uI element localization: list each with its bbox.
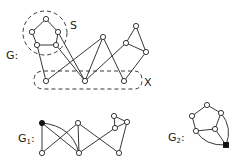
g1-edges <box>42 116 127 153</box>
node <box>212 126 217 131</box>
node <box>75 120 80 125</box>
node <box>123 40 128 45</box>
graph-g1: G1: <box>18 113 130 155</box>
graph-g: G: S X <box>6 11 152 89</box>
node <box>124 119 129 124</box>
node <box>143 49 148 54</box>
g-nodes <box>29 16 148 83</box>
node <box>53 42 58 47</box>
graph-diagram: G: S X <box>0 0 236 167</box>
graph-g2: G2: <box>168 102 229 147</box>
node-filled <box>39 120 44 125</box>
label-s: S <box>70 19 77 32</box>
node <box>82 78 87 83</box>
node-filled <box>224 143 229 148</box>
node <box>39 150 44 155</box>
label-g: G: <box>6 49 18 62</box>
node <box>121 78 126 83</box>
label-g1: G1: <box>18 132 35 146</box>
node <box>43 16 48 21</box>
node <box>100 34 105 39</box>
node <box>29 29 34 34</box>
node <box>34 42 39 47</box>
node <box>55 29 60 34</box>
label-g2: G2: <box>168 131 185 145</box>
g-edges <box>32 19 146 81</box>
node <box>189 113 194 118</box>
node <box>133 23 138 28</box>
node <box>116 150 121 155</box>
node <box>218 110 223 115</box>
node <box>76 150 81 155</box>
node <box>111 113 116 118</box>
label-x: X <box>144 76 152 89</box>
node <box>193 128 198 133</box>
node <box>43 78 48 83</box>
node <box>112 125 117 130</box>
node <box>204 102 209 107</box>
